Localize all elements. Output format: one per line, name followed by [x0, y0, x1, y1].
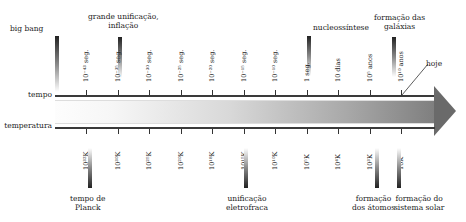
temperature-tick-label: 10³⁰K — [114, 152, 122, 170]
time-tick — [370, 90, 371, 95]
event-atom-formation-label: formação dos átomos — [352, 195, 395, 212]
temperature-tick — [401, 129, 402, 134]
time-tick-label: 10⁻³⁰ seg. — [145, 50, 153, 82]
time-tick-label: 10⁻¹⁰ seg. — [271, 50, 279, 82]
event-electroweak-label: unificação eletrofraca — [226, 195, 268, 212]
time-axis-line — [55, 95, 435, 97]
time-tick — [275, 90, 276, 95]
event-galaxy-formation-label: formação das galáxias — [374, 14, 425, 31]
time-tick-label: 10⁻⁴³ seg. — [82, 50, 90, 82]
event-solar-system-label: formação do sistema solar — [394, 195, 444, 212]
timeline-arrowhead-icon — [434, 86, 456, 136]
time-tick-label: 10¹⁰ anos — [397, 51, 405, 82]
time-tick — [118, 90, 119, 95]
atom-formation-marker — [375, 148, 379, 188]
time-tick — [149, 90, 150, 95]
timeline-arrow-shaft — [55, 100, 445, 124]
temperature-tick — [338, 129, 339, 134]
time-tick-label: 1 seg. — [303, 62, 311, 82]
time-tick-label: 10⁻³⁵ seg. — [114, 50, 122, 82]
event-planck-time-label: tempo de Planck — [70, 195, 106, 212]
electroweak-marker — [244, 148, 248, 188]
temperature-tick — [149, 129, 150, 134]
solar-system-formation-marker — [397, 148, 401, 188]
time-tick — [212, 90, 213, 95]
time-tick-label: 10⁻¹⁵ seg. — [240, 50, 248, 82]
big-bang-marker — [55, 36, 59, 92]
temperature-tick-label: 10¹⁰K — [271, 152, 279, 170]
event-nucleosynthesis-label: nucleossíntese — [313, 24, 369, 33]
temperature-tick-label: 10³K — [366, 154, 374, 170]
temperature-tick — [370, 129, 371, 134]
time-tick-label: 10⁵ anos — [366, 54, 374, 82]
temperature-tick — [86, 129, 87, 134]
event-grand-unification-label: grande unificação, inflação — [88, 13, 159, 30]
time-tick — [86, 90, 87, 95]
time-tick-label: 10 dias — [334, 58, 342, 82]
time-tick — [307, 90, 308, 95]
time-tick — [401, 90, 402, 95]
temperature-tick-label: 10⁴K — [334, 154, 342, 170]
time-tick-label: 10⁻²⁰ seg. — [208, 50, 216, 82]
time-tick — [338, 90, 339, 95]
temperature-tick-label: 10²⁰K — [177, 152, 185, 170]
temperature-tick — [181, 129, 182, 134]
temperature-tick — [244, 129, 245, 134]
temperature-tick-label: 10¹⁸K — [208, 152, 216, 170]
temperature-axis-label: temperatura — [0, 121, 52, 130]
event-big-bang-label: big bang — [10, 25, 43, 34]
temperature-tick — [118, 129, 119, 134]
time-axis-label: tempo — [0, 90, 52, 99]
temperature-tick — [307, 129, 308, 134]
temperature-tick — [212, 129, 213, 134]
time-tick-label: 10⁻²⁵ seg. — [177, 50, 185, 82]
temperature-tick — [275, 129, 276, 134]
temperature-tick-label: 10⁵K — [303, 154, 311, 170]
time-tick — [244, 90, 245, 95]
planck-time-marker — [88, 148, 92, 188]
temperature-tick-label: 10²⁵K — [145, 152, 153, 170]
temperature-axis-line — [55, 127, 435, 129]
time-tick — [181, 90, 182, 95]
galaxy-formation-marker — [392, 37, 396, 77]
